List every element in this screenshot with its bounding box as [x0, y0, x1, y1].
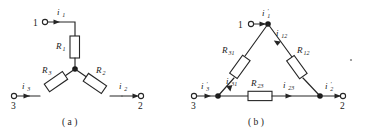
terminal-2b-node[interactable]	[340, 93, 345, 98]
terminal-2-label: 2	[138, 101, 143, 111]
resistor-r23-body	[248, 91, 272, 100]
terminal-3b-label: 3	[191, 101, 196, 111]
current-i3-sub: 3	[26, 86, 30, 92]
terminal-2b-label: 2	[340, 101, 345, 111]
terminal-1-label: 1	[33, 18, 38, 28]
terminal-1-node[interactable]	[42, 19, 47, 24]
wire-r12-to-node2	[303, 78, 320, 96]
current-i1-prime-sub: 1	[267, 13, 270, 19]
resistor-r3-label: R	[41, 65, 48, 75]
caption-b: ( b )	[248, 117, 264, 128]
current-i23-label: i	[283, 80, 286, 90]
resistor-r1-sub: 1	[63, 46, 66, 52]
current-i12-sub: 12	[281, 33, 287, 39]
current-i3-prime-sub: 3	[205, 86, 209, 92]
resistor-r12-body	[287, 55, 307, 78]
terminal-3-label: 3	[11, 101, 16, 111]
arrow-i3-prime	[205, 93, 212, 98]
resistor-r31-label: R	[221, 45, 228, 55]
terminal-3b-node[interactable]	[191, 93, 196, 98]
resistor-r12-label: R	[296, 45, 303, 55]
current-i3-label: i	[22, 81, 25, 91]
terminal-1b-label: 1	[238, 20, 243, 30]
arrow-i3	[24, 93, 31, 98]
resistor-r1-body	[70, 36, 80, 58]
circuit-figure: 1 i 1 R 1 R 3 3 i 3	[0, 0, 370, 137]
current-i2-prime-sub: 2	[330, 86, 333, 92]
resistor-r31-sub: 31	[228, 50, 235, 56]
current-i2-prime-label: i	[325, 81, 328, 91]
arrow-i1-prime	[260, 21, 267, 26]
resistor-r3-sub: 3	[48, 70, 52, 76]
figure-page: 1 i 1 R 1 R 3 3 i 3	[0, 0, 370, 137]
resistor-r31-body	[230, 55, 250, 78]
current-i31-sub: 31	[230, 81, 237, 87]
caption-a: ( a )	[62, 117, 77, 128]
current-i1-sub: 1	[62, 12, 65, 18]
wire-apex-to-r12	[268, 24, 292, 57]
current-i1-prime-label: i	[262, 8, 265, 18]
resistor-r1-label: R	[55, 41, 62, 51]
resistor-r2-label: R	[95, 65, 102, 75]
current-i23-sub: 23	[288, 85, 294, 91]
terminal-2-node[interactable]	[138, 93, 143, 98]
resistor-r23-sub: 23	[258, 83, 264, 89]
resistor-r12-sub: 12	[304, 50, 310, 56]
scan-speck	[350, 59, 352, 61]
current-i12-label: i	[276, 28, 279, 38]
resistor-r23-label: R	[250, 78, 257, 88]
current-i3-prime-label: i	[201, 81, 204, 91]
terminal-3-node[interactable]	[11, 93, 16, 98]
panel-a: 1 i 1 R 1 R 3 3 i 3	[11, 7, 144, 128]
current-i2-label: i	[119, 81, 122, 91]
resistor-r2-sub: 2	[103, 70, 106, 76]
wire-terminal1-to-r1	[47, 22, 75, 36]
panel-b: 1 i 1 ′ R 12 i 12 R 31	[191, 8, 352, 128]
arrow-i12	[274, 41, 281, 46]
arrow-i23	[286, 93, 293, 98]
arrow-i1	[54, 19, 61, 24]
current-i2-sub: 2	[124, 86, 127, 92]
terminal-1b-node[interactable]	[248, 21, 253, 26]
current-i1-label: i	[57, 7, 60, 17]
wire-apex-to-r31	[245, 24, 268, 56]
